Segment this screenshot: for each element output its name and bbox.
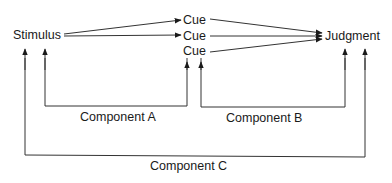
cue-to-judgment-arrows <box>210 19 322 52</box>
component-b-bracket <box>201 49 345 107</box>
cue-label-1: Cue <box>183 13 206 27</box>
judgment-label: Judgment <box>325 29 380 43</box>
component-a-bracket <box>45 49 187 106</box>
lens-model-diagram: Stimulus Cue Cue Cue Judgment Component … <box>0 0 392 183</box>
cue-label-2: Cue <box>183 29 206 43</box>
cue-label-3: Cue <box>183 44 206 58</box>
component-c-label: Component C <box>150 159 227 173</box>
component-a-label: Component A <box>80 110 156 124</box>
component-c-bracket <box>25 49 365 157</box>
stimulus-label: Stimulus <box>13 28 61 42</box>
component-b-label: Component B <box>226 111 302 125</box>
stimulus-to-cue-arrows <box>64 20 181 36</box>
